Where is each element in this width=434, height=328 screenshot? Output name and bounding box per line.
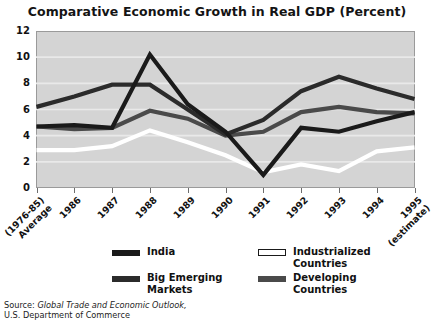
source-organization: U.S. Department of Commerce bbox=[4, 310, 130, 320]
legend-item-developing-countries: Developing Countries bbox=[258, 272, 357, 295]
x-axis-label-line: 1987 bbox=[95, 194, 121, 220]
x-axis-label-line: 1991 bbox=[246, 194, 272, 220]
chart-legend: India Industrialized Countries Big Emerg… bbox=[112, 246, 412, 292]
legend-label-line2: Markets bbox=[147, 284, 193, 295]
legend-item-industrialized-countries: Industrialized Countries bbox=[258, 246, 371, 269]
legend-label-line1: Big Emerging bbox=[147, 272, 223, 283]
x-axis-label-line: 1993 bbox=[322, 194, 348, 220]
y-axis-tick-4: 4 bbox=[0, 130, 30, 141]
legend-swatch-industrialized-countries-icon bbox=[258, 249, 286, 256]
y-axis-tick-10: 10 bbox=[0, 51, 30, 62]
x-axis-label-line: 1992 bbox=[284, 194, 310, 220]
chart-figure: Comparative Economic Growth in Real GDP … bbox=[0, 0, 434, 328]
legend-item-big-emerging-markets: Big Emerging Markets bbox=[112, 272, 223, 295]
plot-area bbox=[36, 31, 415, 188]
source-publication-title: Global Trade and Economic Outlook, bbox=[37, 300, 186, 310]
legend-item-india: India bbox=[112, 246, 175, 258]
y-axis-tick-2: 2 bbox=[0, 156, 30, 167]
x-axis-label-line: 1994 bbox=[360, 194, 386, 220]
x-axis-label-line: 1990 bbox=[208, 194, 234, 220]
y-axis-tick-12: 12 bbox=[0, 25, 30, 36]
x-axis-tick-labels: (1976-85)Average198619871988198919901991… bbox=[0, 190, 434, 248]
x-axis-label-line: 1986 bbox=[57, 194, 83, 220]
y-axis-tick-8: 8 bbox=[0, 77, 30, 88]
legend-label-big-emerging-markets: Big Emerging Markets bbox=[147, 272, 223, 295]
source-prefix: Source: bbox=[4, 300, 37, 310]
x-axis-label-line: 1988 bbox=[133, 194, 159, 220]
plot-lines bbox=[36, 31, 415, 188]
legend-label-developing-countries: Developing Countries bbox=[293, 272, 357, 295]
legend-swatch-big-emerging-markets-icon bbox=[112, 276, 140, 282]
source-note: Source: Global Trade and Economic Outloo… bbox=[4, 300, 334, 320]
legend-label-line2: Countries bbox=[293, 258, 347, 269]
y-axis-tick-6: 6 bbox=[0, 104, 30, 115]
legend-label-line1: Industrialized bbox=[293, 246, 371, 257]
legend-label-line1: Developing bbox=[293, 272, 357, 283]
chart-title: Comparative Economic Growth in Real GDP … bbox=[0, 4, 434, 19]
legend-label-line2: Countries bbox=[293, 284, 347, 295]
legend-swatch-developing-countries-icon bbox=[258, 276, 286, 282]
legend-swatch-india-icon bbox=[112, 250, 140, 256]
legend-label-industrialized-countries: Industrialized Countries bbox=[293, 246, 371, 269]
legend-label-india: India bbox=[147, 246, 175, 258]
x-axis-label-line: 1989 bbox=[171, 194, 197, 220]
